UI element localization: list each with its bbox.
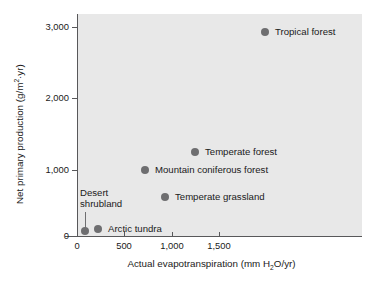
data-point-temperate-grassland[interactable] (161, 193, 169, 201)
data-point-tropical-forest[interactable] (261, 28, 269, 36)
x-axis-title-tail: O/yr) (274, 258, 296, 269)
y-axis-title-superscript: 2 (13, 79, 20, 83)
x-ticklabel-0: 0 (74, 241, 79, 250)
data-point-temperate-forest[interactable] (191, 148, 199, 156)
scatter-chart-figure: 0 500 1,000 1,500 3,000 2,000 1,000 0 Ac… (0, 0, 379, 288)
x-axis-title-main: Actual evapotranspiration (mm H (127, 258, 270, 269)
y-axis-title-main: Net primary production (g/m (14, 83, 25, 204)
y-tick-0 (72, 236, 77, 237)
y-tick-2000 (72, 98, 77, 99)
desert-shrubland-leader-line (85, 212, 86, 231)
y-ticklabel-2000: 2,000 (46, 93, 69, 102)
y-tick-1000 (72, 170, 77, 171)
data-label-tropical-forest: Tropical forest (275, 27, 335, 38)
y-axis-title-tail: ·yr) (14, 64, 25, 79)
x-ticklabel-1000: 1,000 (160, 241, 183, 250)
data-label-arctic-tundra: Arctic tundra (108, 224, 162, 235)
y-ticklabel-3000: 3,000 (46, 22, 69, 31)
data-label-desert-shrubland: Desertshrubland (80, 188, 122, 209)
y-tick-3000 (72, 27, 77, 28)
data-point-arctic-tundra[interactable] (94, 225, 102, 233)
x-ticklabel-1500: 1,500 (207, 241, 230, 250)
y-axis-title: Net primary production (g/m2·yr) (13, 29, 25, 239)
y-ticklabel-1000: 1,000 (46, 165, 69, 174)
data-label-temperate-grassland: Temperate grassland (175, 192, 265, 203)
data-label-temperate-forest: Temperate forest (205, 147, 277, 158)
x-tick-1000 (172, 232, 173, 237)
x-tick-0 (77, 232, 78, 237)
x-ticklabel-500: 500 (116, 241, 132, 250)
y-axis-line (77, 14, 78, 237)
x-axis-line (65, 236, 362, 237)
x-tick-1500 (219, 232, 220, 237)
desert-label-line-2: shrubland (80, 198, 122, 209)
x-axis-title: Actual evapotranspiration (mm H2O/yr) (0, 258, 379, 271)
desert-label-line-1: Desert (80, 187, 108, 198)
data-label-mountain-coniferous-forest: Mountain coniferous forest (155, 165, 268, 176)
y-ticklabel-0: 0 (64, 231, 69, 240)
data-point-mountain-coniferous-forest[interactable] (141, 166, 149, 174)
